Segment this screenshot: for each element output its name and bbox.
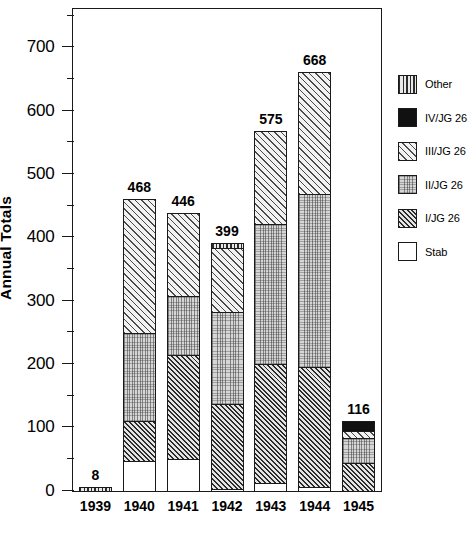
bar-total-label: 399 xyxy=(215,223,238,239)
y-tick-200: 200 xyxy=(62,363,74,364)
y-tick-500: 500 xyxy=(62,173,74,174)
legend-label: IV/JG 26 xyxy=(425,112,467,124)
bar-segment-stab[interactable] xyxy=(254,483,287,491)
bar-segment-ii-jg-26[interactable] xyxy=(211,312,244,404)
bar-group-1942[interactable]: 399 xyxy=(211,243,244,490)
bar-segment-iii-jg-26[interactable] xyxy=(123,199,156,334)
bar-group-1940[interactable]: 468 xyxy=(123,199,156,491)
y-tick-label: 500 xyxy=(27,164,55,184)
bar-segment-stab[interactable] xyxy=(123,461,156,491)
legend-label: I/JG 26 xyxy=(425,212,460,224)
y-minor-tick-50 xyxy=(67,458,74,459)
plot-area: 0100200300400500600700 84684463995756681… xyxy=(74,10,381,491)
y-tick-label: 400 xyxy=(27,227,55,247)
bar-segment-iii-jg-26[interactable] xyxy=(211,247,244,313)
legend-label: III/JG 26 xyxy=(425,145,466,157)
legend-swatch-light-diagonal-hatch xyxy=(398,142,417,161)
legend-swatch-vertical-stripes xyxy=(398,75,417,94)
y-tick-label: 700 xyxy=(27,37,55,57)
y-minor-tick-350 xyxy=(67,268,74,269)
legend-item-iv-jg-26[interactable]: IV/JG 26 xyxy=(398,108,474,128)
legend-item-stab[interactable]: Stab xyxy=(398,242,474,262)
legend-item-other[interactable]: Other xyxy=(398,74,474,94)
bar-segment-iv-jg-26[interactable] xyxy=(342,421,375,432)
bar-group-1945[interactable]: 116 xyxy=(342,421,375,490)
y-tick-300: 300 xyxy=(62,300,74,301)
legend-label: Stab xyxy=(425,246,447,258)
y-axis-title: Annual Totals xyxy=(0,196,15,300)
bar-segment-i-jg-26[interactable] xyxy=(211,403,244,489)
x-axis-label-1942: 1942 xyxy=(211,498,242,514)
x-axis-label-1943: 1943 xyxy=(255,498,286,514)
y-tick-600: 600 xyxy=(62,110,74,111)
legend-label: Other xyxy=(425,78,452,90)
y-tick-label: 200 xyxy=(27,354,55,374)
bar-segment-other[interactable] xyxy=(211,243,244,248)
bar-segment-i-jg-26[interactable] xyxy=(167,355,200,461)
x-axis-label-1940: 1940 xyxy=(124,498,155,514)
y-tick-400: 400 xyxy=(62,236,74,237)
bar-segment-i-jg-26[interactable] xyxy=(298,367,331,489)
legend-item-iii-jg-26[interactable]: III/JG 26 xyxy=(398,141,474,161)
bar-segment-ii-jg-26[interactable] xyxy=(298,194,331,368)
y-minor-tick-750 xyxy=(67,15,74,16)
legend: OtherIV/JG 26III/JG 26II/JG 26I/JG 26Sta… xyxy=(398,74,474,275)
bar-segment-iii-jg-26[interactable] xyxy=(254,131,287,225)
bar-segment-stab[interactable] xyxy=(167,459,200,491)
y-minor-tick-250 xyxy=(67,331,74,332)
legend-swatch-white-empty xyxy=(398,242,417,261)
bar-segment-other[interactable] xyxy=(79,487,112,492)
x-axis-label-1939: 1939 xyxy=(80,498,111,514)
bar-segment-ii-jg-26[interactable] xyxy=(167,296,200,355)
legend-item-i-jg-26[interactable]: I/JG 26 xyxy=(398,208,474,228)
legend-swatch-dark-diagonal-hatch xyxy=(398,209,417,228)
y-minor-tick-450 xyxy=(67,205,74,206)
bar-total-label: 116 xyxy=(347,401,370,417)
bar-segment-ii-jg-26[interactable] xyxy=(254,224,287,365)
bar-total-label: 446 xyxy=(171,193,194,209)
y-minor-tick-150 xyxy=(67,395,74,396)
bar-total-label: 8 xyxy=(92,467,100,483)
bar-segment-ii-jg-26[interactable] xyxy=(123,332,156,422)
bar-segment-i-jg-26[interactable] xyxy=(342,463,375,491)
y-tick-100: 100 xyxy=(62,426,74,427)
y-tick-label: 300 xyxy=(27,291,55,311)
bar-segment-iii-jg-26[interactable] xyxy=(342,431,375,439)
x-axis-label-1941: 1941 xyxy=(168,498,199,514)
bar-group-1939[interactable]: 8 xyxy=(79,487,112,491)
bar-segment-i-jg-26[interactable] xyxy=(254,364,287,485)
y-tick-700: 700 xyxy=(62,46,74,47)
y-tick-label: 600 xyxy=(27,101,55,121)
y-minor-tick-550 xyxy=(67,141,74,142)
bar-total-label: 468 xyxy=(128,179,151,195)
bar-group-1944[interactable]: 668 xyxy=(298,72,331,490)
y-tick-label: 0 xyxy=(45,481,54,501)
bar-group-1943[interactable]: 575 xyxy=(254,131,287,491)
bar-segment-ii-jg-26[interactable] xyxy=(342,438,375,465)
bar-group-1941[interactable]: 446 xyxy=(167,213,200,491)
legend-swatch-solid-black xyxy=(398,108,417,127)
legend-label: II/JG 26 xyxy=(425,179,463,191)
legend-item-ii-jg-26[interactable]: II/JG 26 xyxy=(398,175,474,195)
bar-total-label: 575 xyxy=(259,111,282,127)
stacked-bar-chart: Annual Totals 0100200300400500600700 846… xyxy=(0,0,476,552)
bar-total-label: 668 xyxy=(303,52,326,68)
y-minor-tick-650 xyxy=(67,78,74,79)
x-axis-label-1945: 1945 xyxy=(343,498,374,514)
bar-segment-i-jg-26[interactable] xyxy=(123,421,156,462)
x-axis-label-1944: 1944 xyxy=(299,498,330,514)
y-tick-0: 0 xyxy=(62,490,74,491)
y-tick-label: 100 xyxy=(27,417,55,437)
bar-segment-iii-jg-26[interactable] xyxy=(298,72,331,195)
legend-swatch-stipple-dots xyxy=(398,175,417,194)
bar-segment-iii-jg-26[interactable] xyxy=(167,213,200,298)
